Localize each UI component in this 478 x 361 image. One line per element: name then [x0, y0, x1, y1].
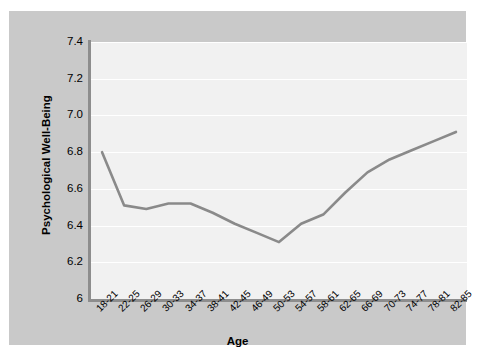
y-tick-label-text: 6.8	[39, 146, 83, 158]
y-tick-label-text: 6.6	[39, 183, 83, 195]
plot-area	[91, 42, 467, 299]
series-line-psychological-well-being	[102, 132, 456, 242]
y-tick-label-text: 7.0	[39, 109, 83, 121]
series-line-chart	[91, 42, 467, 299]
panel-inner: Psychological Well-Being 66.26.46.66.87.…	[9, 11, 466, 345]
chart-figure: Psychological Well-Being 66.26.46.66.87.…	[0, 0, 478, 361]
y-tick-label-text: 7.2	[39, 73, 83, 85]
y-tick-label-text: 6	[39, 293, 83, 305]
figure-panel: Psychological Well-Being 66.26.46.66.87.…	[9, 11, 466, 345]
x-axis-title: Age	[9, 335, 466, 347]
y-tick-label-text: 6.2	[39, 256, 83, 268]
y-tick-label-text: 6.4	[39, 220, 83, 232]
y-axis-title: Psychological Well-Being	[40, 65, 52, 265]
y-axis-line	[88, 40, 91, 301]
y-tick-label-text: 7.4	[39, 36, 83, 48]
